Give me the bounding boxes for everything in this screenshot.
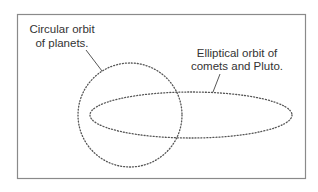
elliptical-orbit-label-line1: Elliptical orbit of	[197, 47, 278, 59]
orbit-diagram: Circular orbit of planets. Elliptical or…	[0, 0, 318, 192]
circular-orbit-label-line1: Circular orbit	[29, 23, 95, 35]
circular-orbit-label-line2: of planets.	[35, 37, 88, 49]
elliptical-orbit-label-line2: comets and Pluto.	[191, 60, 283, 72]
